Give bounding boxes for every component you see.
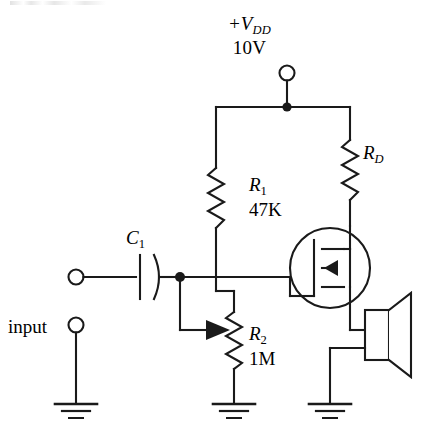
supply-voltage-text: 10V xyxy=(228,38,271,58)
supply-junction-dot xyxy=(282,102,291,111)
resistor-rd-body xyxy=(342,140,358,200)
r2-label: R2 1M xyxy=(249,324,275,369)
resistor-r2-body xyxy=(226,312,242,369)
r1-value-text: 47K xyxy=(249,200,282,220)
c1-subscript-text: 1 xyxy=(139,237,145,251)
speaker-body xyxy=(365,310,389,360)
gate-input-junction-dot xyxy=(175,272,185,282)
r2-symbol-text: R xyxy=(249,323,261,344)
input-terminal-top-circle xyxy=(69,270,84,285)
rd-label: RD xyxy=(363,143,384,166)
input-label: input xyxy=(8,317,47,337)
speaker-cone xyxy=(389,293,411,377)
supply-terminal-circle xyxy=(280,66,295,81)
circuit-schematic-svg xyxy=(0,0,437,443)
c1-label: C1 xyxy=(126,228,145,251)
input-terminal-bottom-circle xyxy=(69,318,84,333)
rd-symbol-text: R xyxy=(363,142,375,163)
supply-label: +VDD 10V xyxy=(228,14,271,58)
r1-label: R1 47K xyxy=(249,175,282,220)
circuit-figure: +VDD 10V RD R1 47K R2 1M C1 input xyxy=(0,0,437,443)
resistor-r1-body xyxy=(208,168,224,228)
r1-subscript-text: 1 xyxy=(261,184,267,198)
r2-value-text: 1M xyxy=(249,349,275,369)
supply-symbol-text: +V xyxy=(228,13,252,34)
supply-subscript-text: DD xyxy=(252,23,271,37)
r1-symbol-text: R xyxy=(249,174,261,195)
rd-subscript-text: D xyxy=(375,152,384,166)
c1-symbol-text: C xyxy=(126,227,139,248)
r2-subscript-text: 2 xyxy=(261,333,267,347)
